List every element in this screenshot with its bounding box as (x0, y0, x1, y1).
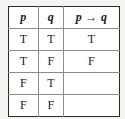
cell-implication-empty (64, 73, 120, 95)
header-row: p q p → q (9, 7, 120, 29)
table-row: F F (9, 95, 120, 117)
column-header-q: q (39, 7, 64, 29)
column-header-q-label: q (48, 10, 54, 25)
cell-q: F (39, 51, 64, 73)
column-header-implication-label: p → q (76, 10, 108, 25)
table-body: T T T T F F F T F F (9, 29, 120, 117)
cell-q: T (39, 29, 64, 51)
column-header-p-label: p (20, 10, 26, 25)
column-header-p: p (9, 7, 39, 29)
page-canvas: p q p → q T T T T F F F (0, 0, 125, 119)
cell-implication: T (64, 29, 120, 51)
table-header: p q p → q (9, 7, 120, 29)
cell-implication-empty (64, 95, 120, 117)
cell-p: F (9, 73, 39, 95)
table-row: T T T (9, 29, 120, 51)
truth-table: p q p → q T T T T F F F (8, 6, 120, 117)
cell-p: T (9, 51, 39, 73)
table-row: F T (9, 73, 120, 95)
table-row: T F F (9, 51, 120, 73)
cell-q: T (39, 73, 64, 95)
cell-p: T (9, 29, 39, 51)
cell-implication: F (64, 51, 120, 73)
column-header-implication: p → q (64, 7, 120, 29)
cell-p: F (9, 95, 39, 117)
cell-q: F (39, 95, 64, 117)
